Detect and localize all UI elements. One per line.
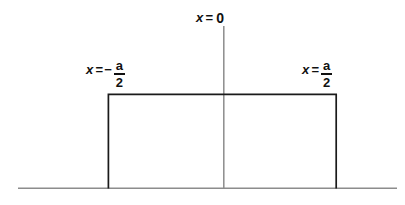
diagram-svg [0,0,405,205]
label-x-zero-value: 0 [214,11,224,25]
fraction-numerator: a [115,59,124,73]
label-x-positive-variable: x [302,63,311,76]
fraction-numerator: a [322,59,331,73]
fraction-half-a: a 2 [320,59,333,89]
fraction-denominator: 2 [322,75,331,89]
label-x-negative-variable: x [86,63,95,76]
label-x-negative-equals: = [95,63,104,76]
label-x-negative-sign: − [104,63,113,76]
label-x-negative-half-a: x = − a 2 [86,62,126,92]
label-x-zero-variable: x [196,11,205,24]
label-x-zero: x = 0 [196,10,224,24]
label-x-positive-half-a: x = a 2 [302,62,333,92]
label-x-positive-equals: = [311,63,320,76]
label-x-zero-equals: = [205,11,214,24]
potential-well-outline [108,94,336,188]
fraction-denominator: 2 [115,75,124,89]
figure-canvas: x = 0 x = − a 2 x = a 2 [0,0,405,205]
fraction-negative-half-a: a 2 [113,59,126,89]
